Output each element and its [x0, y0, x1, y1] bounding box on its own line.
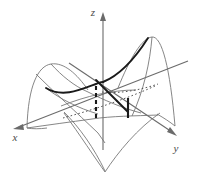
mesh-valley-front-right — [105, 113, 160, 172]
mesh-vline-e — [27, 128, 47, 129]
x-axis-arrowhead — [13, 124, 24, 130]
y-axis-arrowhead — [167, 127, 177, 136]
y-axis-label: y — [173, 142, 179, 154]
saddle-surface-figure: z y x — [0, 0, 205, 180]
mesh-ridge-right — [118, 37, 175, 126]
z-axis-arrowhead — [100, 12, 106, 21]
figure-canvas: z y x — [0, 0, 205, 180]
z-axis-label: z — [90, 6, 96, 18]
axes-group: z y x — [12, 6, 188, 154]
x-axis-label: x — [12, 131, 18, 143]
highlight-down-parabola — [46, 82, 103, 93]
surface-mesh-group — [27, 37, 175, 172]
mesh-section-a — [51, 64, 88, 92]
highlight-cross-branch — [96, 80, 128, 112]
mesh-section-lower — [27, 115, 158, 128]
y-axis — [69, 63, 177, 136]
